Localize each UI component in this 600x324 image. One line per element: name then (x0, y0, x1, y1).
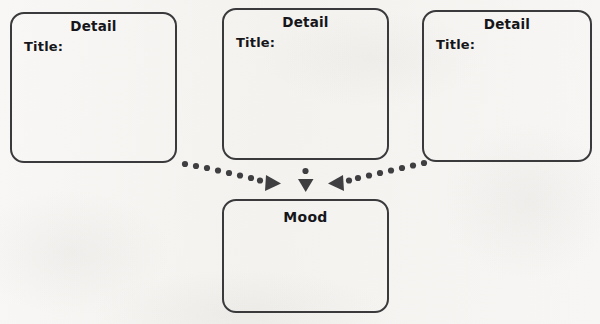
connector-center (298, 168, 314, 192)
detail-node-1-heading: Detail (12, 18, 175, 34)
mood-node[interactable]: Mood (222, 199, 389, 313)
arrowhead-left (265, 175, 281, 191)
detail-node-3-title-label: Title: (436, 37, 475, 52)
arrowhead-center (298, 179, 314, 192)
detail-node-2[interactable]: Detail Title: (222, 8, 389, 160)
arrowhead-right (328, 175, 344, 191)
detail-node-1-title-label: Title: (24, 39, 63, 54)
connector-right (328, 160, 427, 191)
detail-node-2-heading: Detail (224, 14, 387, 30)
detail-node-2-title-label: Title: (236, 35, 275, 50)
detail-node-3-heading: Detail (424, 16, 590, 32)
detail-node-1[interactable]: Detail Title: (10, 12, 177, 163)
connector-left (182, 161, 281, 191)
detail-node-3[interactable]: Detail Title: (422, 10, 592, 162)
mood-node-heading: Mood (224, 209, 387, 225)
graphic-organizer-diagram: Detail Title: Detail Title: Detail Title… (0, 0, 600, 324)
